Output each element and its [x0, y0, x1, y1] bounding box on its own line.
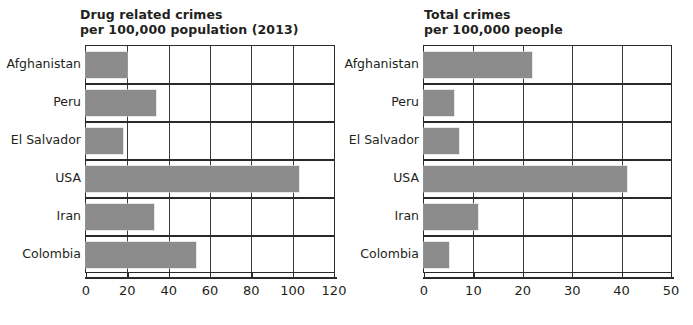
bar — [424, 166, 627, 193]
gridline-horizontal — [86, 235, 334, 236]
chart-panel-drug-related-crimes: Drug related crimes per 100,000 populati… — [0, 0, 345, 325]
category-label: USA — [55, 171, 81, 185]
chart-title-left-line-2: per 100,000 population (2013) — [80, 22, 299, 37]
chart-title-left: Drug related crimes per 100,000 populati… — [80, 7, 299, 37]
x-axis-tick — [127, 272, 128, 278]
x-axis-tick-label: 40 — [160, 283, 177, 298]
category-label: Colombia — [22, 247, 81, 261]
x-axis-tick-label: 80 — [243, 283, 260, 298]
gridline-horizontal — [86, 83, 334, 84]
x-axis-tick-label: 100 — [280, 283, 305, 298]
bar — [424, 128, 459, 155]
x-axis-line-right — [423, 277, 674, 279]
x-axis-tick — [293, 272, 294, 278]
x-axis-tick — [334, 272, 335, 278]
category-label: Peru — [53, 95, 81, 109]
category-label: Colombia — [360, 247, 419, 261]
x-axis-tick — [86, 272, 87, 278]
bar — [424, 242, 449, 269]
category-label: Afghanistan — [7, 57, 81, 71]
category-label: El Salvador — [349, 133, 419, 147]
x-axis-tick-label: 50 — [663, 283, 680, 298]
bar — [86, 52, 127, 79]
plot-area-right — [423, 45, 672, 273]
chart-page: Drug related crimes per 100,000 populati… — [0, 0, 693, 325]
x-axis-tick — [572, 272, 573, 278]
category-label: USA — [393, 171, 419, 185]
x-axis-tick-label: 10 — [465, 283, 482, 298]
gridline-horizontal — [424, 235, 671, 236]
x-axis-tick-label: 30 — [564, 283, 581, 298]
x-axis-tick — [622, 272, 623, 278]
x-axis-tick-label: 20 — [119, 283, 136, 298]
category-label: El Salvador — [11, 133, 81, 147]
gridline-horizontal — [424, 83, 671, 84]
x-axis-tick — [210, 272, 211, 278]
x-axis-tick — [424, 272, 425, 278]
chart-title-right-line-2: per 100,000 people — [424, 22, 563, 37]
x-axis-tick-label: 0 — [82, 283, 90, 298]
bar — [86, 204, 154, 231]
plot-area-left — [85, 45, 335, 273]
gridline-horizontal — [424, 121, 671, 122]
bar — [86, 128, 123, 155]
chart-title-left-line-1: Drug related crimes — [80, 7, 299, 22]
bar — [424, 90, 454, 117]
gridline-horizontal — [86, 121, 334, 122]
bar — [86, 166, 299, 193]
gridline-horizontal — [424, 197, 671, 198]
chart-title-right: Total crimes per 100,000 people — [424, 7, 563, 37]
x-axis-tick — [251, 272, 252, 278]
x-axis-tick — [169, 272, 170, 278]
bar — [86, 242, 196, 269]
bar — [424, 204, 478, 231]
gridline-horizontal — [86, 197, 334, 198]
category-label: Iran — [395, 209, 419, 223]
x-axis-tick — [671, 272, 672, 278]
chart-title-right-line-1: Total crimes — [424, 7, 563, 22]
gridline-horizontal — [424, 159, 671, 160]
category-label: Afghanistan — [345, 57, 419, 71]
category-label: Peru — [391, 95, 419, 109]
x-axis-tick-label: 20 — [515, 283, 532, 298]
x-axis-tick-label: 60 — [202, 283, 219, 298]
bar — [424, 52, 532, 79]
x-axis-tick — [523, 272, 524, 278]
gridline-horizontal — [86, 159, 334, 160]
category-label: Iran — [57, 209, 81, 223]
x-axis-tick-label: 0 — [420, 283, 428, 298]
x-axis-tick — [473, 272, 474, 278]
bar — [86, 90, 156, 117]
x-axis-tick-label: 40 — [613, 283, 630, 298]
